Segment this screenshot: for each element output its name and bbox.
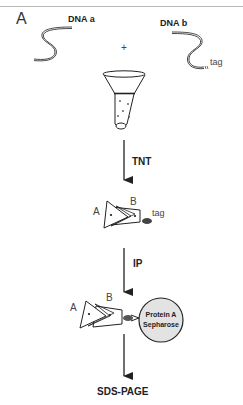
subunit-a-label-2: A xyxy=(70,302,77,313)
protein-complex-icon xyxy=(104,201,152,228)
subunit-b-label-2: B xyxy=(106,292,113,303)
step-ip-label: IP xyxy=(133,258,142,269)
step-tnt-label: TNT xyxy=(132,156,151,167)
bead-label-line1: Protein A xyxy=(139,310,183,320)
immunoprecipitated-complex-icon xyxy=(80,301,139,328)
subunit-a-label: A xyxy=(93,206,100,217)
dna-b-strand-icon xyxy=(172,32,208,69)
subunit-b-label: B xyxy=(130,196,137,207)
diagram-graphics xyxy=(0,0,243,405)
complex-tag-label: tag xyxy=(152,208,165,218)
test-tube-icon xyxy=(103,71,145,129)
dna-b-tag-label: tag xyxy=(210,57,223,67)
panel-label: A xyxy=(16,10,27,28)
bead-label: Protein A Sepharose xyxy=(139,310,183,330)
dna-a-label: DNA a xyxy=(68,14,95,24)
dna-b-label: DNA b xyxy=(160,18,187,28)
plus-sign: + xyxy=(121,42,127,53)
final-step-label: SDS-PAGE xyxy=(97,386,149,397)
bead-label-line2: Sepharose xyxy=(139,320,183,330)
dna-a-strand-icon xyxy=(34,27,72,61)
